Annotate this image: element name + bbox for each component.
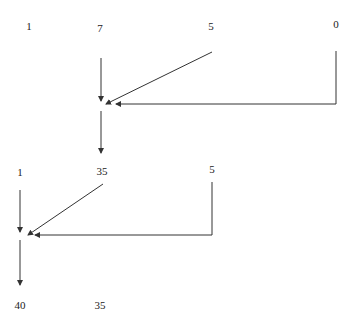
node-label-b1: 40 — [15, 299, 27, 311]
node-label-t1: 1 — [26, 20, 32, 32]
node-label-m2: 35 — [97, 165, 109, 177]
diagram-svg: 175013554035 — [0, 0, 354, 332]
node-label-m1: 1 — [17, 166, 23, 178]
node-label-m3: 5 — [209, 163, 215, 175]
arrow-edge-e7 — [35, 182, 212, 235]
edges-group — [20, 51, 336, 285]
node-label-t2: 7 — [97, 22, 103, 34]
node-label-t3: 5 — [208, 20, 214, 32]
arrow-edge-e3 — [116, 51, 336, 104]
arrow-edge-e2 — [106, 52, 212, 104]
node-label-t4: 0 — [333, 18, 339, 30]
labels-group: 175013554035 — [15, 18, 340, 311]
diagram-canvas: 175013554035 — [0, 0, 354, 332]
arrow-edge-e6 — [28, 184, 103, 235]
node-label-b2: 35 — [95, 299, 107, 311]
